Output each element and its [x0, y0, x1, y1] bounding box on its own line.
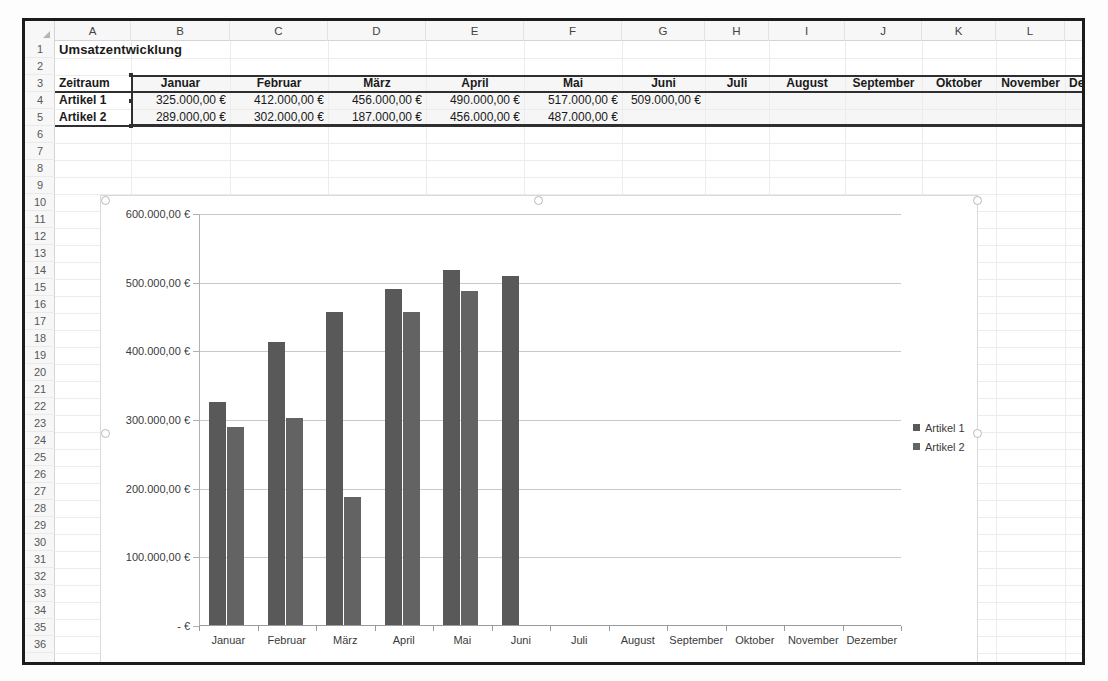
- column-header-a[interactable]: A: [55, 21, 131, 41]
- cell-rowlabel-artikel-2[interactable]: Artikel 2: [59, 109, 127, 126]
- cell-a1-title[interactable]: Umsatzentwicklung: [59, 41, 324, 58]
- row-header-36[interactable]: 36: [25, 636, 55, 653]
- column-header-l[interactable]: L: [996, 21, 1065, 41]
- cell-value-r1-c5[interactable]: 517.000,00 €: [528, 92, 618, 109]
- legend-item-artikel-2[interactable]: Artikel 2: [913, 437, 965, 456]
- chart-resize-handle[interactable]: [973, 429, 982, 438]
- chart-resize-handle[interactable]: [973, 196, 982, 205]
- chart-bar-artikel-1-april[interactable]: [385, 289, 402, 625]
- cell-header-dezember[interactable]: Dezember: [1069, 75, 1082, 92]
- row-header-19[interactable]: 19: [25, 347, 55, 364]
- chart-resize-handle[interactable]: [534, 196, 543, 205]
- cell-header-september[interactable]: September: [849, 75, 918, 92]
- cell-header-februar[interactable]: Februar: [234, 75, 324, 92]
- cell-value-r1-c3[interactable]: 456.000,00 €: [332, 92, 422, 109]
- row-header-7[interactable]: 7: [25, 143, 55, 160]
- chart-bar-artikel-1-januar[interactable]: [209, 402, 226, 625]
- column-header-f[interactable]: F: [524, 21, 622, 41]
- row-header-22[interactable]: 22: [25, 398, 55, 415]
- column-header-m[interactable]: M: [1065, 21, 1082, 41]
- column-header-g[interactable]: G: [622, 21, 705, 41]
- row-header-25[interactable]: 25: [25, 449, 55, 466]
- row-header-17[interactable]: 17: [25, 313, 55, 330]
- row-header-29[interactable]: 29: [25, 517, 55, 534]
- row-header-35[interactable]: 35: [25, 619, 55, 636]
- row-header-32[interactable]: 32: [25, 568, 55, 585]
- row-header-33[interactable]: 33: [25, 585, 55, 602]
- column-header-k[interactable]: K: [922, 21, 996, 41]
- chart-bar-artikel-2-mai[interactable]: [461, 291, 478, 625]
- selection-handle[interactable]: [129, 73, 133, 77]
- row-header-14[interactable]: 14: [25, 262, 55, 279]
- chart-bar-artikel-1-februar[interactable]: [268, 342, 285, 625]
- selection-handle[interactable]: [129, 124, 133, 128]
- legend-item-artikel-1[interactable]: Artikel 1: [913, 418, 965, 437]
- row-header-26[interactable]: 26: [25, 466, 55, 483]
- column-header-e[interactable]: E: [426, 21, 524, 41]
- column-header-b[interactable]: B: [131, 21, 230, 41]
- cell-value-r2-c1[interactable]: 289.000,00 €: [135, 109, 226, 126]
- row-header-28[interactable]: 28: [25, 500, 55, 517]
- select-all-corner[interactable]: [25, 21, 55, 41]
- cell-header-april[interactable]: April: [430, 75, 520, 92]
- cell-header-märz[interactable]: März: [332, 75, 422, 92]
- column-header-i[interactable]: I: [769, 21, 845, 41]
- column-header-j[interactable]: J: [845, 21, 922, 41]
- row-header-1[interactable]: 1: [25, 41, 55, 58]
- row-header-11[interactable]: 11: [25, 211, 55, 228]
- cell-header-november[interactable]: November: [1000, 75, 1061, 92]
- row-header-30[interactable]: 30: [25, 534, 55, 551]
- row-header-16[interactable]: 16: [25, 296, 55, 313]
- cell-header-januar[interactable]: Januar: [135, 75, 226, 92]
- row-header-12[interactable]: 12: [25, 228, 55, 245]
- chart-resize-handle[interactable]: [101, 429, 110, 438]
- row-header-21[interactable]: 21: [25, 381, 55, 398]
- cell-value-r1-c1[interactable]: 325.000,00 €: [135, 92, 226, 109]
- chart-bar-artikel-1-mai[interactable]: [443, 270, 460, 625]
- cell-header-juli[interactable]: Juli: [709, 75, 765, 92]
- row-header-20[interactable]: 20: [25, 364, 55, 381]
- chart-legend[interactable]: Artikel 1Artikel 2: [913, 418, 965, 456]
- row-header-8[interactable]: 8: [25, 160, 55, 177]
- cell-header-mai[interactable]: Mai: [528, 75, 618, 92]
- cell-value-r2-c3[interactable]: 187.000,00 €: [332, 109, 422, 126]
- row-header-4[interactable]: 4: [25, 92, 55, 109]
- row-header-3[interactable]: 3: [25, 75, 55, 92]
- chart-resize-handle[interactable]: [101, 196, 110, 205]
- cell-rowlabel-artikel-1[interactable]: Artikel 1: [59, 92, 127, 109]
- cell-value-r2-c4[interactable]: 456.000,00 €: [430, 109, 520, 126]
- row-header-13[interactable]: 13: [25, 245, 55, 262]
- chart-bar-artikel-1-juni[interactable]: [502, 276, 519, 626]
- chart-bar-artikel-2-märz[interactable]: [344, 497, 361, 625]
- chart-bar-artikel-2-januar[interactable]: [227, 427, 244, 625]
- column-header-d[interactable]: D: [328, 21, 426, 41]
- cell-grid[interactable]: UmsatzentwicklungZeitraumJanuarFebruarMä…: [55, 41, 1082, 662]
- embedded-bar-chart[interactable]: - €100.000,00 €200.000,00 €300.000,00 €4…: [100, 195, 978, 662]
- row-header-27[interactable]: 27: [25, 483, 55, 500]
- row-header-23[interactable]: 23: [25, 415, 55, 432]
- cell-a3-zeitraum[interactable]: Zeitraum: [59, 75, 127, 92]
- chart-bar-artikel-2-april[interactable]: [403, 312, 420, 625]
- cell-header-oktober[interactable]: Oktober: [926, 75, 992, 92]
- row-header-5[interactable]: 5: [25, 109, 55, 126]
- cell-value-r2-c2[interactable]: 302.000,00 €: [234, 109, 324, 126]
- column-header-h[interactable]: H: [705, 21, 769, 41]
- row-header-2[interactable]: 2: [25, 58, 55, 75]
- column-header-c[interactable]: C: [230, 21, 328, 41]
- row-header-18[interactable]: 18: [25, 330, 55, 347]
- row-header-10[interactable]: 10: [25, 194, 55, 211]
- selection-handle[interactable]: [129, 99, 133, 103]
- row-header-31[interactable]: 31: [25, 551, 55, 568]
- cell-value-r1-c2[interactable]: 412.000,00 €: [234, 92, 324, 109]
- cell-value-r1-c4[interactable]: 490.000,00 €: [430, 92, 520, 109]
- chart-bar-artikel-2-februar[interactable]: [286, 418, 303, 625]
- cell-value-r1-c6[interactable]: 509.000,00 €: [626, 92, 701, 109]
- chart-bar-artikel-1-märz[interactable]: [326, 312, 343, 625]
- cell-header-august[interactable]: August: [773, 75, 841, 92]
- cell-value-r2-c5[interactable]: 487.000,00 €: [528, 109, 618, 126]
- cell-header-juni[interactable]: Juni: [626, 75, 701, 92]
- row-header-24[interactable]: 24: [25, 432, 55, 449]
- row-header-34[interactable]: 34: [25, 602, 55, 619]
- row-header-15[interactable]: 15: [25, 279, 55, 296]
- row-header-9[interactable]: 9: [25, 177, 55, 194]
